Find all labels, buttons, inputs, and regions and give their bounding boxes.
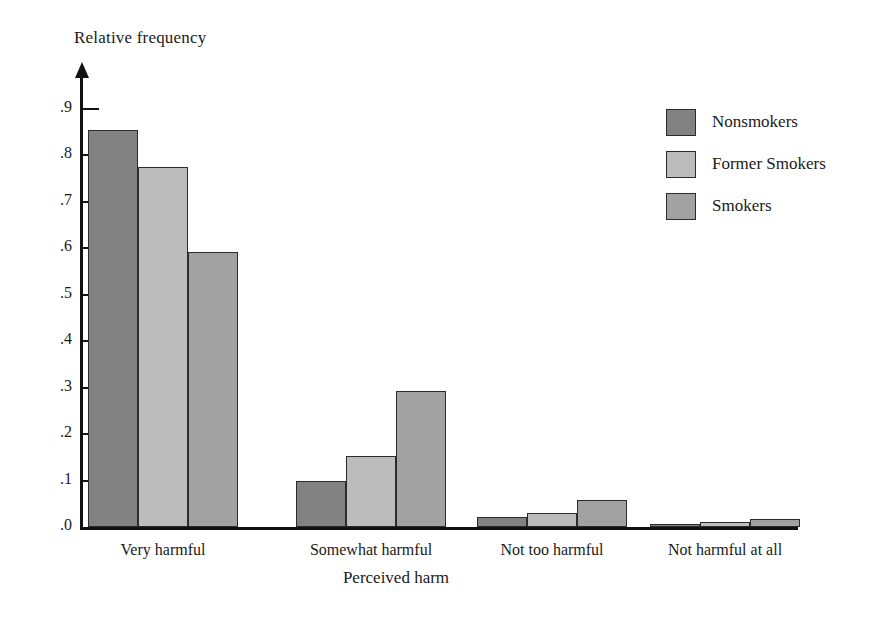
legend-item-1: Former Smokers bbox=[666, 150, 826, 178]
legend: NonsmokersFormer SmokersSmokers bbox=[666, 108, 826, 234]
bar-2-1 bbox=[396, 391, 446, 527]
y-axis-tick-label: .1 bbox=[50, 470, 72, 488]
y-axis-line bbox=[80, 74, 83, 529]
legend-item-2: Smokers bbox=[666, 192, 826, 220]
y-axis-tick bbox=[83, 108, 99, 110]
y-axis-title: Relative frequency bbox=[74, 28, 206, 48]
bar-2-2 bbox=[577, 500, 627, 527]
y-axis-tick-label: .0 bbox=[50, 516, 72, 534]
legend-label: Former Smokers bbox=[712, 154, 826, 174]
x-axis-category-label: Not too harmful bbox=[452, 541, 652, 559]
y-axis-tick-label: .3 bbox=[50, 377, 72, 395]
bar-1-0 bbox=[138, 167, 188, 527]
x-axis-category-label: Not harmful at all bbox=[625, 541, 825, 559]
bar-1-3 bbox=[700, 522, 750, 527]
bar-0-1 bbox=[296, 481, 346, 527]
bar-2-0 bbox=[188, 252, 238, 527]
y-axis-tick-label: .2 bbox=[50, 423, 72, 441]
legend-swatch-icon bbox=[666, 193, 696, 220]
legend-label: Smokers bbox=[712, 196, 772, 216]
y-axis-tick-label: .7 bbox=[50, 191, 72, 209]
bar-chart: Relative frequency .0.1.2.3.4.5.6.7.8.9 … bbox=[0, 0, 884, 632]
legend-item-0: Nonsmokers bbox=[666, 108, 826, 136]
bar-0-3 bbox=[650, 524, 700, 527]
x-axis-title: Perceived harm bbox=[0, 568, 884, 588]
legend-swatch-icon bbox=[666, 109, 696, 136]
bar-0-0 bbox=[88, 130, 138, 527]
legend-label: Nonsmokers bbox=[712, 112, 798, 132]
x-axis-title-text: Perceived harm bbox=[343, 568, 449, 587]
legend-swatch-icon bbox=[666, 151, 696, 178]
x-axis-line bbox=[80, 527, 798, 530]
y-axis-tick-label: .8 bbox=[50, 144, 72, 162]
bar-0-2 bbox=[477, 517, 527, 527]
y-axis-tick-label: .6 bbox=[50, 237, 72, 255]
bar-1-2 bbox=[527, 513, 577, 527]
bar-2-3 bbox=[750, 519, 800, 527]
bar-1-1 bbox=[346, 456, 396, 527]
y-axis-tick-label: .5 bbox=[50, 284, 72, 302]
x-axis-category-label: Somewhat harmful bbox=[271, 541, 471, 559]
y-axis-tick-label: .4 bbox=[50, 330, 72, 348]
y-axis-tick-label: .9 bbox=[50, 98, 72, 116]
x-axis-category-label: Very harmful bbox=[63, 541, 263, 559]
